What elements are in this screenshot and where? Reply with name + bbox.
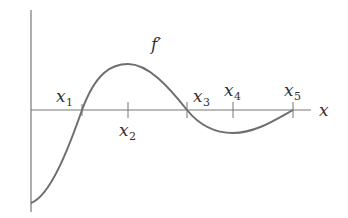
f-prime-curve bbox=[31, 64, 293, 203]
svg-text:5: 5 bbox=[294, 90, 301, 103]
svg-text:x: x bbox=[224, 80, 234, 100]
f-prime-graph: f′ x x 1 x 2 x 3 x 4 x 5 bbox=[0, 0, 348, 218]
svg-text:x: x bbox=[284, 80, 294, 100]
label-x5: x 5 bbox=[284, 80, 301, 103]
svg-text:4: 4 bbox=[234, 90, 241, 103]
svg-text:1: 1 bbox=[66, 96, 73, 109]
svg-text:x: x bbox=[119, 120, 129, 140]
label-x2: x 2 bbox=[119, 120, 136, 143]
label-x1: x 1 bbox=[56, 86, 73, 109]
curve-label: f′ bbox=[149, 34, 161, 54]
x-axis-label: x bbox=[319, 100, 329, 120]
svg-text:x: x bbox=[56, 86, 66, 106]
label-x3: x 3 bbox=[193, 86, 210, 109]
label-x4: x 4 bbox=[224, 80, 241, 103]
svg-text:2: 2 bbox=[129, 130, 136, 143]
svg-text:x: x bbox=[193, 86, 203, 106]
svg-text:3: 3 bbox=[203, 96, 210, 109]
